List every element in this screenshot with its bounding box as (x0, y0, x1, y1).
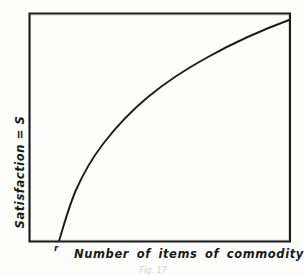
y-axis-label: Satisfaction = S (13, 116, 27, 229)
figure-caption: Fig. 17 (0, 266, 306, 275)
curve-origin-mark-r: r (54, 243, 58, 253)
x-axis-label: Number of items of commodity = X (74, 247, 306, 261)
satisfaction-curve (59, 20, 289, 241)
utility-curve-figure: Satisfaction = S Number of items of comm… (0, 0, 306, 275)
plot-canvas (0, 0, 306, 275)
